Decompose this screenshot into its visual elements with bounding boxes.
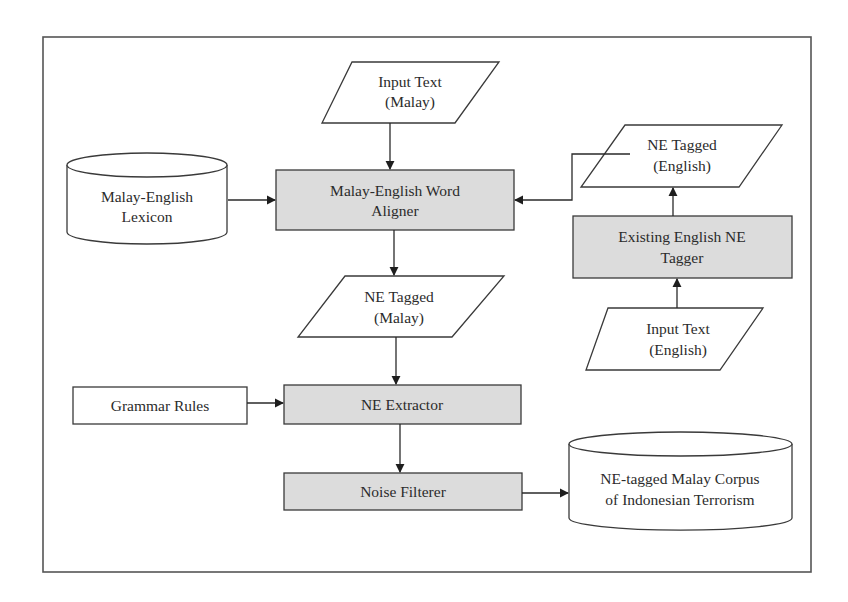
ne-tagged-malay-line1: NE Tagged bbox=[364, 288, 434, 305]
noise-filterer-node: Noise Filterer bbox=[284, 473, 522, 510]
english-ne-tagger-line2: Tagger bbox=[661, 249, 705, 266]
ne-extractor-node: NE Extractor bbox=[284, 385, 521, 424]
input-text-english-line1: Input Text bbox=[646, 320, 710, 337]
corpus-node: NE-tagged Malay Corpus of Indonesian Ter… bbox=[569, 432, 792, 530]
ne-tagged-malay-line2: (Malay) bbox=[374, 309, 424, 327]
input-text-english-node: Input Text (English) bbox=[586, 308, 763, 370]
word-aligner-node: Malay-English Word Aligner bbox=[276, 170, 514, 230]
grammar-rules-label: Grammar Rules bbox=[111, 397, 210, 414]
word-aligner-line1: Malay-English Word bbox=[330, 182, 460, 199]
word-aligner-line2: Aligner bbox=[371, 202, 419, 219]
input-text-malay-node: Input Text (Malay) bbox=[322, 62, 499, 123]
corpus-line1: NE-tagged Malay Corpus bbox=[600, 470, 759, 487]
ne-tagged-english-line2: (English) bbox=[653, 157, 711, 175]
lexicon-line2: Lexicon bbox=[122, 208, 173, 225]
ne-tagged-english-node: NE Tagged (English) bbox=[581, 125, 782, 187]
lexicon-line1: Malay-English bbox=[101, 188, 193, 205]
input-text-malay-line2: (Malay) bbox=[385, 93, 435, 111]
ne-tagging-flow-diagram: Input Text (Malay) Malay-English Lexicon… bbox=[0, 0, 848, 602]
english-ne-tagger-node: Existing English NE Tagger bbox=[573, 216, 792, 278]
english-ne-tagger-line1: Existing English NE bbox=[618, 228, 745, 245]
corpus-line2: of Indonesian Terrorism bbox=[605, 491, 754, 508]
malay-english-lexicon-node: Malay-English Lexicon bbox=[67, 153, 227, 244]
input-text-malay-line1: Input Text bbox=[378, 73, 442, 90]
noise-filterer-label: Noise Filterer bbox=[360, 483, 446, 500]
grammar-rules-node: Grammar Rules bbox=[73, 387, 247, 424]
ne-tagged-malay-node: NE Tagged (Malay) bbox=[298, 276, 504, 337]
input-text-english-line2: (English) bbox=[649, 341, 707, 359]
ne-extractor-label: NE Extractor bbox=[361, 396, 444, 413]
ne-tagged-english-line1: NE Tagged bbox=[647, 136, 717, 153]
